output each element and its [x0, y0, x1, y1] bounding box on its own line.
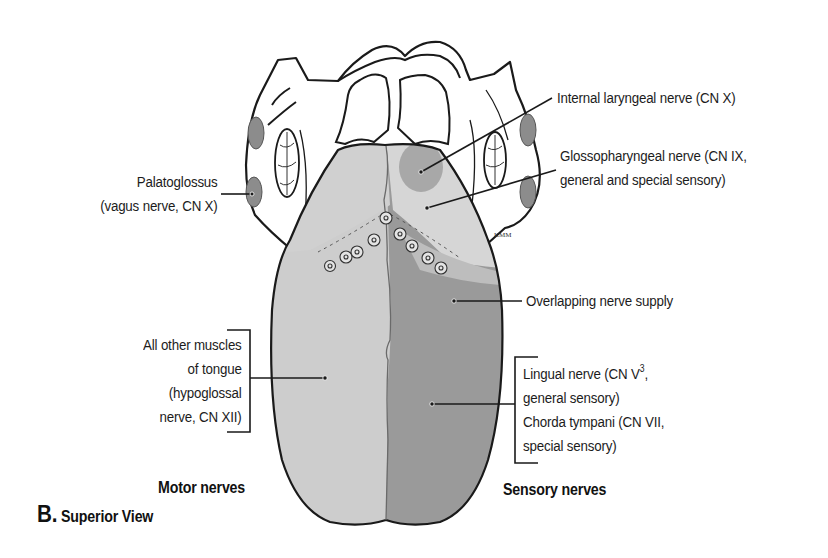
label-other-muscles-hypoglossal: All other muscles of tongue (hypoglossal…: [143, 333, 242, 429]
figure-caption: B. Superior View: [37, 502, 153, 528]
tongue-innervation-diagram: KMM: [0, 0, 828, 558]
label-lingual-chorda-tympani: Lingual nerve (CN V3, general sensory) C…: [523, 362, 664, 458]
label-overlapping-nerve-supply: Overlapping nerve supply: [526, 289, 673, 313]
panel-title: Superior View: [61, 507, 153, 525]
section-label-sensory-nerves: Sensory nerves: [503, 477, 606, 501]
label-palatoglossus: Palatoglossus (vagus nerve, CN X): [101, 170, 218, 218]
artist-signature: KMM: [494, 231, 512, 239]
label-glossopharyngeal: Glossopharyngeal nerve (CN IX, general a…: [560, 144, 747, 192]
label-lingual-line1: Lingual nerve (CN V3,: [523, 362, 664, 386]
panel-letter: B.: [37, 500, 57, 527]
label-internal-laryngeal: Internal laryngeal nerve (CN X): [557, 86, 735, 110]
section-label-motor-nerves: Motor nerves: [158, 475, 245, 499]
